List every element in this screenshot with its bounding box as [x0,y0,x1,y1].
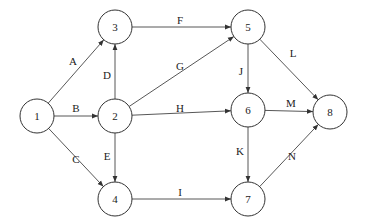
network-diagram: ABCDEFGHIJKLMN 12345678 [0,0,366,224]
node-label: 2 [112,110,118,122]
node-5: 5 [231,10,265,44]
node-label: 1 [34,110,40,122]
edge-label: H [176,102,184,114]
node-1: 1 [20,99,54,133]
edge-label: L [290,47,297,59]
node-8: 8 [313,95,347,129]
arrow-line [265,110,313,111]
edge-label: E [104,150,111,162]
node-label: 4 [112,193,118,205]
node-label: 7 [245,193,251,205]
node-2: 2 [98,99,132,133]
edge-m [265,110,313,111]
node-4: 4 [98,182,132,216]
edge-label: G [176,60,184,72]
edge-label: C [72,153,79,165]
edge-label: D [103,69,111,81]
edge-label: N [288,150,296,162]
edge-label: B [72,102,79,114]
edge-label: A [69,55,77,67]
node-3: 3 [98,10,132,44]
edge-a [48,40,104,103]
arrow-line [48,40,104,103]
node-7: 7 [231,182,265,216]
node-label: 5 [245,21,251,33]
node-6: 6 [231,93,265,127]
edge-label: I [178,186,182,198]
edge-label: J [239,65,244,77]
edge-label: M [286,97,296,109]
edge-label: F [177,14,183,26]
node-label: 6 [245,104,251,116]
edge-label: K [236,145,244,157]
node-label: 8 [327,106,333,118]
node-label: 3 [112,21,118,33]
